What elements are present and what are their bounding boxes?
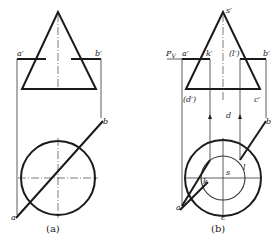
arrow-k [208, 114, 212, 119]
arrow-l [238, 114, 242, 119]
figure-b: s′ PV a′ k′ (l′) b′ (d′) c′ d b s l k c … [165, 6, 271, 234]
label-a: a [176, 203, 181, 212]
cone-section-diagram: a′ b′ b a (a) s′ PV a′ k′ (l′) b′ [0, 0, 280, 242]
label-l-prime: (l′) [229, 49, 240, 58]
label-pv: PV [165, 49, 176, 59]
label-b: b [266, 117, 271, 126]
label-k-prime: k′ [206, 49, 213, 58]
label-d: d [226, 111, 231, 120]
label-l: l [243, 163, 246, 172]
figure-a: a′ b′ b a (a) [11, 12, 108, 234]
caption-a: (a) [46, 223, 60, 234]
cone-front-view [22, 12, 96, 89]
caption-b: (b) [211, 223, 225, 234]
label-s-prime: s′ [226, 6, 232, 15]
label-b-prime: b′ [263, 49, 270, 58]
label-s: s [226, 168, 230, 177]
label-c: c [221, 213, 226, 222]
label-b-prime: b′ [95, 49, 102, 58]
plane-trace-ab [16, 121, 103, 218]
label-a-prime: a′ [17, 49, 24, 58]
label-c-prime: c′ [254, 95, 260, 104]
label-b: b [103, 117, 108, 126]
label-a-prime: a′ [182, 49, 189, 58]
label-k: k [203, 177, 208, 186]
label-a: a [11, 213, 16, 222]
label-d-prime: (d′) [183, 95, 196, 104]
